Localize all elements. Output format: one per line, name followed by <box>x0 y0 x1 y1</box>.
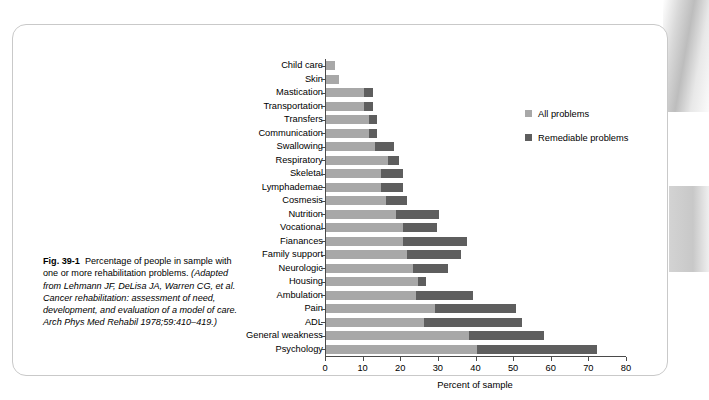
bar-row <box>326 264 627 273</box>
bar-segment-remediable-problems <box>407 250 462 259</box>
bar-segment-remediable-problems <box>418 277 426 286</box>
x-axis-tick-label: 10 <box>357 363 367 373</box>
bar-row <box>326 88 627 97</box>
bar-segment-all-problems <box>326 115 369 124</box>
y-axis-tick <box>321 214 325 215</box>
bar-segment-remediable-problems <box>369 115 377 124</box>
bar-segment-all-problems <box>326 291 416 300</box>
bar-segment-remediable-problems <box>364 88 373 97</box>
bar-row <box>326 237 627 246</box>
x-axis-tick-label: 0 <box>322 363 327 373</box>
y-axis-label-general-weakness: General weakness <box>246 329 323 342</box>
y-axis-tick <box>321 120 325 121</box>
x-axis-tick <box>588 357 589 361</box>
bar-segment-remediable-problems <box>396 210 439 219</box>
y-axis-label-respiratory: Respiratory <box>275 154 323 167</box>
legend-label-all-problems: All problems <box>538 108 589 120</box>
bar-segment-remediable-problems <box>369 129 377 138</box>
y-axis-tick <box>321 268 325 269</box>
x-axis-tick <box>438 357 439 361</box>
x-axis-tick <box>626 357 627 361</box>
y-axis-label-child-care: Child care <box>281 59 323 72</box>
x-axis-tick <box>551 357 552 361</box>
figure-caption: Fig. 39-1 Percentage of people in sample… <box>43 255 239 329</box>
x-axis-tick <box>513 357 514 361</box>
y-axis-label-neurologic: Neurologic <box>279 262 323 275</box>
bar-row <box>326 291 627 300</box>
y-axis-tick <box>321 106 325 107</box>
y-axis-tick <box>321 174 325 175</box>
x-axis-tick <box>400 357 401 361</box>
x-axis-tick <box>476 357 477 361</box>
bar-segment-remediable-problems <box>477 345 597 354</box>
bar-segment-remediable-problems <box>435 304 516 313</box>
bar-segment-all-problems <box>326 250 407 259</box>
legend-swatch-all-problems <box>525 110 532 117</box>
bar-segment-all-problems <box>326 318 424 327</box>
bar-segment-all-problems <box>326 156 388 165</box>
y-axis-label-ambulation: Ambulation <box>276 289 323 302</box>
y-axis-label-housing: Housing <box>289 275 323 288</box>
bar-segment-remediable-problems <box>424 318 522 327</box>
bar-row <box>326 61 627 70</box>
x-axis-tick <box>363 357 364 361</box>
bar-segment-remediable-problems <box>413 264 449 273</box>
bar-segment-all-problems <box>326 277 418 286</box>
y-axis-tick <box>321 309 325 310</box>
x-axis-tick <box>325 357 326 361</box>
bar-row <box>326 169 627 178</box>
bar-segment-all-problems <box>326 237 403 246</box>
bar-row <box>326 210 627 219</box>
y-axis-label-family-support: Family support <box>262 248 323 261</box>
chart-axes: Percent of sample 01020304050607080 <box>325 55 645 375</box>
x-axis-tick-label: 20 <box>395 363 405 373</box>
y-axis-tick <box>321 322 325 323</box>
x-axis-tick-label: 30 <box>433 363 443 373</box>
bar-segment-remediable-problems <box>416 291 472 300</box>
legend-entry-remediable-problems: Remediable problems <box>525 131 628 143</box>
y-axis-tick <box>321 241 325 242</box>
bar-segment-remediable-problems <box>386 196 407 205</box>
legend-swatch-remediable-problems <box>525 134 532 141</box>
bar-segment-all-problems <box>326 210 396 219</box>
bar-segment-remediable-problems <box>403 237 467 246</box>
bar-row <box>326 345 627 354</box>
y-axis-tick <box>321 133 325 134</box>
bar-row <box>326 277 627 286</box>
bar-segment-all-problems <box>326 264 413 273</box>
y-axis-tick <box>321 282 325 283</box>
page-edge-artifact-top <box>663 0 709 112</box>
bar-segment-all-problems <box>326 183 381 192</box>
bar-segment-all-problems <box>326 223 403 232</box>
bar-segment-all-problems <box>326 75 339 84</box>
chart-plot-area: Child careSkinMasticationTransportationT… <box>245 55 655 375</box>
y-axis-tick <box>321 187 325 188</box>
bar-segment-remediable-problems <box>469 331 544 340</box>
y-axis-category-labels: Child careSkinMasticationTransportationT… <box>245 55 323 355</box>
y-axis-tick <box>321 147 325 148</box>
y-axis-label-communication: Communication <box>258 127 323 140</box>
y-axis-tick <box>321 79 325 80</box>
bar-row <box>326 250 627 259</box>
legend-entry-all-problems: All problems <box>525 107 589 119</box>
y-axis-tick <box>321 228 325 229</box>
x-axis-tick-label: 50 <box>508 363 518 373</box>
bar-segment-remediable-problems <box>381 169 404 178</box>
y-axis-label-fianances: Fianances <box>280 235 323 248</box>
bar-segment-all-problems <box>326 129 369 138</box>
x-axis-title: Percent of sample <box>437 379 513 390</box>
bar-segment-all-problems <box>326 169 381 178</box>
y-axis-label-vocational: Vocational <box>280 221 323 234</box>
bar-segment-all-problems <box>326 61 335 70</box>
y-axis-tick <box>321 295 325 296</box>
bar-row <box>326 318 627 327</box>
bar-segment-remediable-problems <box>388 156 399 165</box>
bar-segment-remediable-problems <box>403 223 437 232</box>
bar-row <box>326 75 627 84</box>
x-axis-tick-label: 70 <box>583 363 593 373</box>
bar-segment-all-problems <box>326 102 364 111</box>
legend-label-remediable-problems: Remediable problems <box>538 132 628 144</box>
figure-card: Fig. 39-1 Percentage of people in sample… <box>12 24 668 376</box>
bar-segment-remediable-problems <box>381 183 404 192</box>
bar-segment-all-problems <box>326 88 364 97</box>
